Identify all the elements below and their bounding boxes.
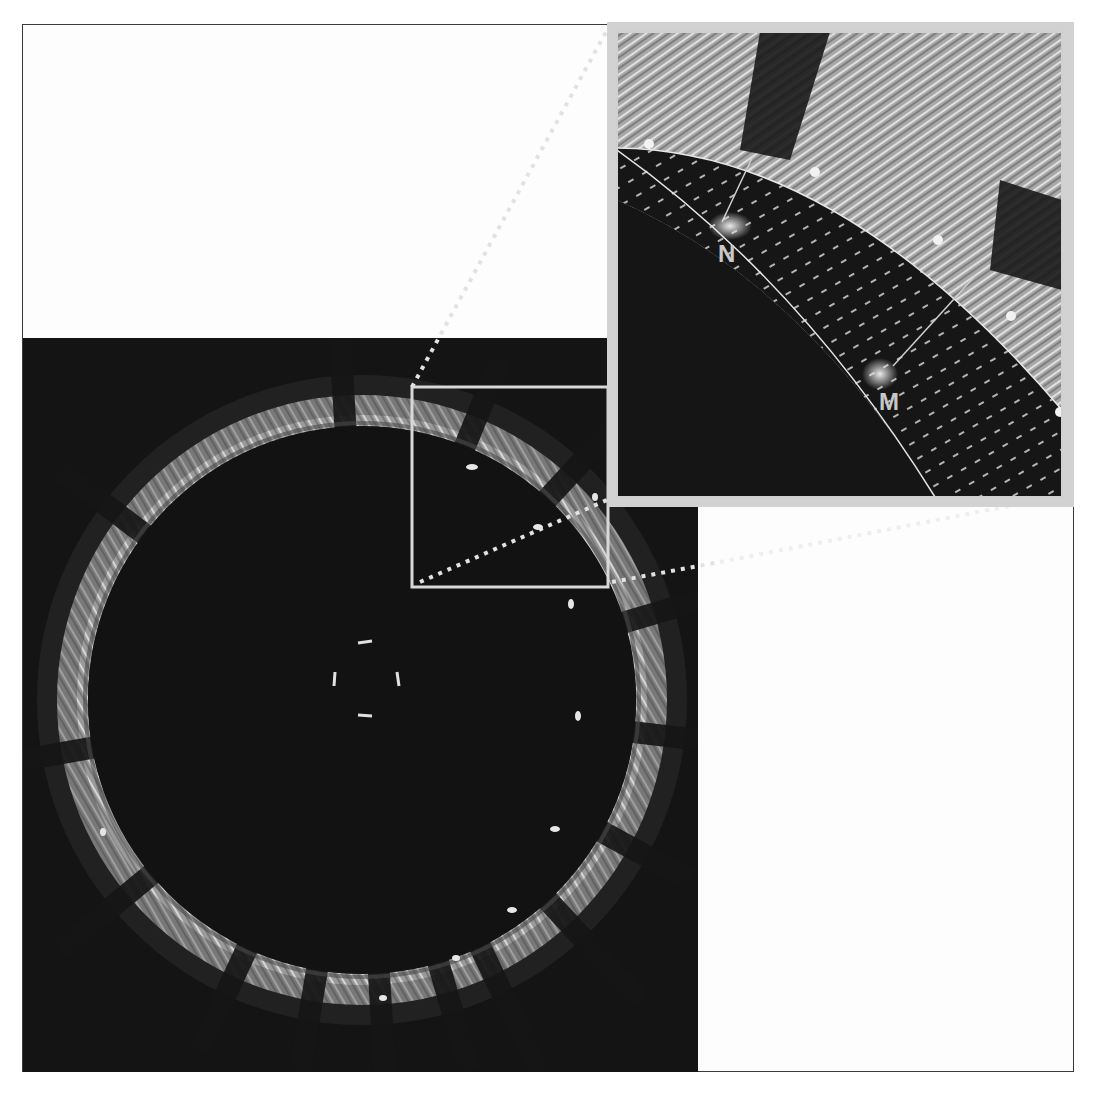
inset-zoomed-image: N M bbox=[617, 32, 1065, 497]
label-m: M bbox=[879, 388, 899, 415]
label-n: N bbox=[718, 240, 735, 267]
ivus-main-image bbox=[23, 338, 700, 1072]
figure-canvas: N M bbox=[0, 0, 1093, 1093]
